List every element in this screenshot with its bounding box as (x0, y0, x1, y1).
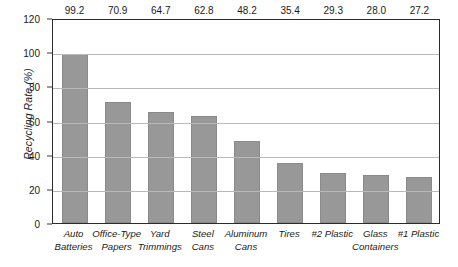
bar[interactable]: 99.2 (62, 54, 88, 223)
bar[interactable]: 48.2 (234, 141, 260, 223)
bar[interactable]: 29.3 (320, 173, 346, 223)
bar[interactable]: 35.4 (277, 163, 303, 223)
bar-value-label: 62.8 (194, 5, 213, 16)
bar-chart: Recycling Rate (%) 020406080100120 99.27… (0, 0, 458, 267)
bar-group[interactable]: 35.4 (277, 18, 303, 223)
bar-value-label: 29.3 (323, 5, 342, 16)
y-tick-label: 60 (29, 116, 40, 127)
y-tick-label: 20 (29, 184, 40, 195)
bar-group[interactable]: 99.2 (62, 18, 88, 223)
y-tick-label: 100 (23, 48, 40, 59)
bars-layer: 99.270.964.762.848.235.429.328.027.2 (53, 20, 439, 223)
bar-value-label: 70.9 (108, 5, 127, 16)
y-tick-label: 0 (34, 219, 40, 230)
bar-group[interactable]: 70.9 (105, 18, 131, 223)
bar[interactable]: 64.7 (148, 112, 174, 223)
gridline (53, 123, 439, 124)
y-tick-label: 80 (29, 82, 40, 93)
bar[interactable]: 28.0 (363, 175, 389, 223)
bar[interactable]: 70.9 (105, 102, 131, 223)
x-axis-label: #1 Plastic (393, 228, 444, 241)
gridline (53, 88, 439, 89)
bar-value-label: 48.2 (237, 5, 256, 16)
bar[interactable]: 62.8 (191, 116, 217, 223)
bar-group[interactable]: 64.7 (148, 18, 174, 223)
x-axis-label-line: Containers (350, 241, 401, 254)
x-axis-label-line: Cans (220, 241, 271, 254)
bar-group[interactable]: 48.2 (234, 18, 260, 223)
gridline (53, 157, 439, 158)
gridline (53, 54, 439, 55)
plot-area: 99.270.964.762.848.235.429.328.027.2 (52, 19, 440, 224)
y-tick-label: 120 (23, 14, 40, 25)
bar-value-label: 27.2 (410, 5, 429, 16)
bar-group[interactable]: 27.2 (406, 18, 432, 223)
x-axis-label-line: #1 Plastic (393, 228, 444, 241)
bar-group[interactable]: 62.8 (191, 18, 217, 223)
bar-value-label: 35.4 (280, 5, 299, 16)
bar[interactable]: 27.2 (406, 177, 432, 223)
bar-group[interactable]: 28.0 (363, 18, 389, 223)
bar-group[interactable]: 29.3 (320, 18, 346, 223)
y-tick-label: 40 (29, 150, 40, 161)
bar-value-label: 64.7 (151, 5, 170, 16)
gridline (53, 191, 439, 192)
x-axis-labels: AutoBatteriesOffice-TypePapersYardTrimmi… (52, 228, 440, 266)
bar-value-label: 99.2 (65, 5, 84, 16)
bar-value-label: 28.0 (367, 5, 386, 16)
y-axis-ticks: 020406080100120 (0, 0, 52, 267)
